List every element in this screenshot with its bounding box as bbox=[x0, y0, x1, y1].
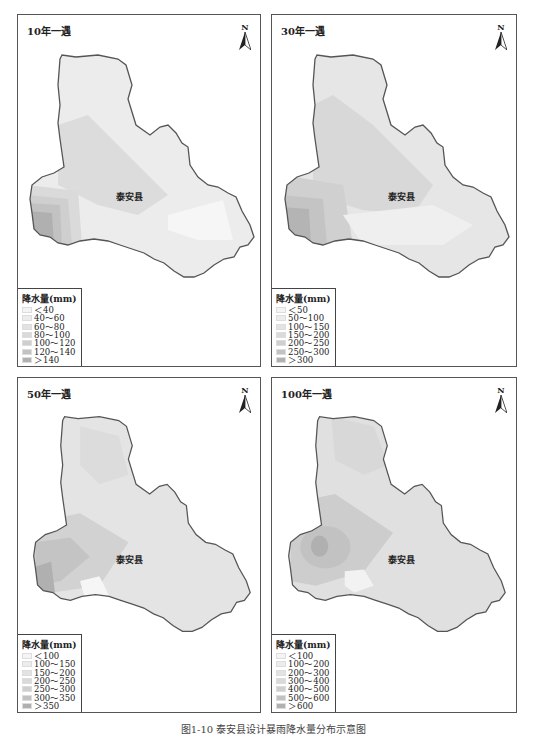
precipitation-map bbox=[272, 378, 518, 668]
county-label: 泰安县 bbox=[388, 190, 415, 203]
legend: 降水量(mm) ＜100 100～200 200～300 300～400 400… bbox=[272, 634, 336, 712]
map-panel-10yr: 10年一遇 N 泰安县 降水量(mm) ＜40 40～60 60～80 80～1… bbox=[17, 14, 261, 367]
legend-title: 降水量(mm) bbox=[276, 292, 331, 305]
map-panel-30yr: 30年一遇 N 泰安县 降水量(mm) ＜50 50～100 100～150 1… bbox=[271, 14, 517, 367]
precipitation-map bbox=[18, 378, 262, 668]
legend-item: ＞300 bbox=[276, 356, 331, 364]
legend-title: 降水量(mm) bbox=[22, 638, 77, 651]
legend-item: ＞140 bbox=[22, 356, 77, 364]
legend-item: ＞600 bbox=[276, 702, 331, 710]
precipitation-map bbox=[18, 15, 262, 315]
legend: 降水量(mm) ＜100 100～150 150～200 200～250 250… bbox=[18, 634, 82, 712]
map-panel-50yr: 50年一遇 N 泰安县 降水量(mm) ＜100 100～150 150～200… bbox=[17, 377, 261, 713]
county-label: 泰安县 bbox=[116, 190, 143, 203]
legend-title: 降水量(mm) bbox=[276, 638, 331, 651]
legend-item: ＞350 bbox=[22, 702, 77, 710]
figure-caption: 图1-10 泰安县设计暴雨降水量分布示意图 bbox=[0, 721, 547, 736]
county-label: 泰安县 bbox=[388, 553, 415, 566]
legend: 降水量(mm) ＜50 50～100 100～150 150～200 200～2… bbox=[272, 288, 336, 366]
map-panel-100yr: 100年一遇 N 泰安县 降水量(mm) ＜100 100～200 200～30… bbox=[271, 377, 517, 713]
legend-title: 降水量(mm) bbox=[22, 292, 77, 305]
county-label: 泰安县 bbox=[116, 553, 143, 566]
precipitation-map bbox=[272, 15, 518, 315]
legend: 降水量(mm) ＜40 40～60 60～80 80～100 100～120 1… bbox=[18, 288, 82, 366]
